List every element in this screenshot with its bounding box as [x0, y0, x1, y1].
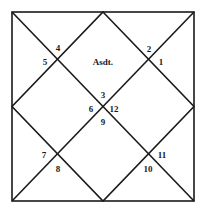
ascendant-label: Asdt. [93, 57, 113, 67]
house-number-7: 7 [42, 150, 47, 160]
house-number-4: 4 [56, 43, 61, 53]
house-number-12: 12 [110, 104, 120, 114]
house-number-11: 11 [158, 150, 167, 160]
house-number-9: 9 [101, 117, 106, 127]
house-number-3: 3 [101, 90, 106, 100]
chart-lines [12, 12, 194, 201]
horoscope-chart: Asdt. 123456789101112 [0, 0, 204, 210]
house-number-2: 2 [147, 44, 152, 54]
house-number-5: 5 [43, 57, 48, 67]
house-number-1: 1 [159, 57, 164, 67]
house-number-6: 6 [89, 104, 94, 114]
house-number-8: 8 [56, 164, 61, 174]
house-number-10: 10 [144, 164, 154, 174]
